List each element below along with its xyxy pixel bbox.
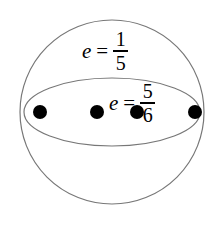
fraction-denominator: 6: [141, 104, 155, 125]
fraction-denominator: 5: [114, 52, 128, 73]
point-marker: [188, 105, 202, 119]
label-fraction: 5 6: [140, 81, 155, 125]
label-relation: =: [96, 41, 108, 62]
equator-label: e = 5 6: [109, 81, 155, 125]
label-relation: =: [123, 93, 135, 114]
point-marker: [33, 105, 47, 119]
point-marker: [90, 105, 104, 119]
label-variable: e: [109, 93, 118, 114]
label-fraction: 1 5: [113, 29, 128, 73]
fraction-numerator: 1: [114, 29, 128, 50]
figure-container: e = 1 5 e = 5 6: [0, 0, 219, 225]
upper-hemisphere-label: e = 1 5: [82, 29, 128, 73]
fraction-numerator: 5: [141, 81, 155, 102]
label-variable: e: [82, 41, 91, 62]
